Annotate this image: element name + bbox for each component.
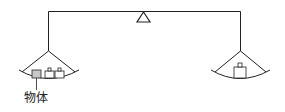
weight-1 [45,68,54,78]
object-block [32,70,41,78]
fulcrum-triangle [137,12,150,22]
weight-large [234,63,246,78]
weight-2 [55,68,64,78]
object-label: 物体 [24,91,48,105]
